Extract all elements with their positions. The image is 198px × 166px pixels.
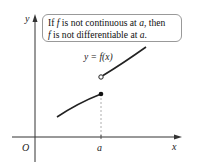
callout-box: If f is not continuous at a, then f is n… <box>42 14 182 42</box>
text: is not continuous at <box>59 17 139 28</box>
callout-line-2: f is not differentiable at a. <box>48 29 177 41</box>
callout-line-1: If f is not continuous at a, then <box>48 17 177 29</box>
a-label: a <box>97 142 102 153</box>
x-axis-label: x <box>171 141 177 152</box>
filled-dot <box>99 92 104 97</box>
curve-label: y = f(x) <box>83 52 113 63</box>
origin-label: O <box>22 142 29 153</box>
hollow-dot <box>99 75 103 79</box>
text: If <box>48 17 57 28</box>
text: is not differentiable at <box>51 29 140 40</box>
x-axis-arrow-icon <box>174 135 182 140</box>
text: , then <box>144 17 165 28</box>
curve-left-piece <box>57 94 101 117</box>
y-axis-arrow-icon <box>33 14 38 22</box>
text: . <box>145 29 147 40</box>
y-axis-label: y <box>24 13 30 24</box>
